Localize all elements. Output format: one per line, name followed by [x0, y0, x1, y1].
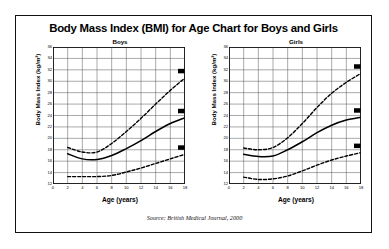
x-tick-label: 8	[111, 186, 113, 190]
chart-frame: Body Mass Index (BMI) for Age Chart for …	[15, 15, 372, 233]
y-tick-label: 18	[223, 148, 228, 152]
source-caption: Source: British Medical Journal, 2000	[16, 214, 373, 221]
y-tick-label: 28	[47, 91, 52, 95]
x-tick-label: 18	[183, 186, 188, 190]
y-tick-label: 30	[47, 79, 52, 83]
curve-end-marker	[354, 64, 361, 69]
y-tick-label: 14	[223, 171, 228, 175]
page-title: Body Mass Index (BMI) for Age Chart for …	[16, 22, 371, 34]
x-tick-label: 8	[287, 186, 289, 190]
plot-area-girls	[229, 47, 361, 184]
x-axis-ticks-girls: 024681012141618	[229, 186, 361, 194]
chart-panels: Boys Body Mass Index (kg/m²) 36343230282…	[16, 38, 373, 210]
curve-end-marker	[354, 144, 361, 149]
y-axis-ticks-girls: 36343230282624222018161412	[215, 47, 228, 184]
x-tick-label: 14	[329, 186, 334, 190]
x-tick-label: 16	[344, 186, 349, 190]
y-tick-label: 22	[223, 125, 228, 129]
plot-area-boys	[53, 47, 185, 184]
y-tick-label: 20	[223, 136, 228, 140]
y-axis-ticks-boys: 36343230282624222018161412	[39, 47, 52, 184]
y-tick-label: 34	[223, 56, 228, 60]
y-tick-label: 22	[47, 125, 52, 129]
panel-boys: Boys Body Mass Index (kg/m²) 36343230282…	[20, 38, 192, 210]
y-tick-label: 18	[47, 148, 52, 152]
gridlines-girls	[229, 47, 361, 184]
x-tick-label: 2	[67, 186, 69, 190]
curve-end-marker	[354, 108, 361, 113]
x-axis-label-girls: Age (years)	[230, 196, 362, 203]
y-tick-label: 14	[47, 171, 52, 175]
curve-end-marker	[178, 69, 185, 74]
panel-title-girls: Girls	[230, 38, 362, 45]
x-tick-label: 2	[243, 186, 245, 190]
y-tick-label: 32	[47, 68, 52, 72]
y-tick-label: 24	[47, 113, 52, 117]
y-tick-label: 26	[47, 102, 52, 106]
x-tick-label: 12	[315, 186, 320, 190]
y-tick-label: 36	[223, 45, 228, 49]
y-tick-label: 28	[223, 91, 228, 95]
x-tick-label: 0	[228, 186, 230, 190]
plot-svg-boys	[53, 47, 185, 184]
x-axis-ticks-boys: 024681012141618	[53, 186, 185, 194]
x-tick-label: 6	[272, 186, 274, 190]
x-tick-label: 12	[139, 186, 144, 190]
x-tick-label: 4	[257, 186, 259, 190]
x-tick-label: 10	[124, 186, 129, 190]
y-tick-label: 32	[223, 68, 228, 72]
panel-girls: Girls Body Mass Index (kg/m²) 3634323028…	[196, 38, 368, 210]
plot-svg-girls	[229, 47, 361, 184]
x-tick-label: 0	[52, 186, 54, 190]
panel-title-boys: Boys	[54, 38, 186, 45]
y-tick-label: 16	[47, 159, 52, 163]
curve-end-marker	[178, 145, 185, 150]
x-tick-label: 6	[96, 186, 98, 190]
x-tick-label: 4	[81, 186, 83, 190]
x-tick-label: 14	[153, 186, 158, 190]
bmi-chart-page: Body Mass Index (BMI) for Age Chart for …	[0, 0, 389, 249]
x-tick-label: 18	[359, 186, 364, 190]
y-tick-label: 36	[47, 45, 52, 49]
y-tick-label: 16	[223, 159, 228, 163]
x-tick-label: 10	[300, 186, 305, 190]
x-axis-label-boys: Age (years)	[54, 196, 186, 203]
gridlines-boys	[53, 47, 185, 184]
x-tick-label: 16	[168, 186, 173, 190]
y-tick-label: 26	[223, 102, 228, 106]
y-tick-label: 24	[223, 113, 228, 117]
y-tick-label: 30	[223, 79, 228, 83]
y-tick-label: 20	[47, 136, 52, 140]
y-tick-label: 34	[47, 56, 52, 60]
curve-end-marker	[178, 109, 185, 114]
